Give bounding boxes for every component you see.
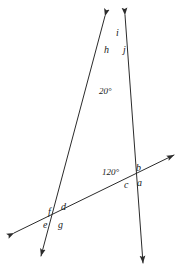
left-line [41, 16, 105, 256]
angle-label-120: 120° [102, 168, 119, 177]
point-label-a: a [137, 178, 142, 188]
angle-label-20: 20° [99, 87, 112, 96]
point-label-h: h [104, 45, 109, 55]
transversal-line [14, 155, 174, 233]
point-label-d: d [61, 202, 66, 212]
point-label-g: g [58, 220, 63, 230]
angle-diagram-svg [0, 0, 183, 273]
point-label-b: b [136, 163, 141, 173]
right-line [125, 15, 143, 263]
point-label-e: e [43, 220, 47, 230]
point-label-j: j [123, 45, 126, 55]
point-label-f: f [48, 207, 51, 217]
point-label-i: i [116, 28, 119, 38]
point-label-c: c [124, 180, 128, 190]
diagram-canvas: 20° 120° h i j b a c d f e g [0, 0, 183, 273]
